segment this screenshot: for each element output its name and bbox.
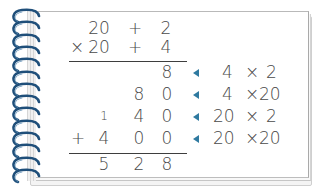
result-digit-tens: 2 bbox=[132, 156, 146, 173]
multiplicand-plus: + bbox=[128, 20, 142, 37]
partial-product-digit: 8 bbox=[160, 64, 174, 81]
label-right-factor: 20 bbox=[259, 130, 281, 147]
spiral-binding bbox=[10, 8, 50, 186]
carry-digit: 1 bbox=[99, 110, 109, 122]
partial-product-digit: 0 bbox=[160, 86, 174, 103]
label-times: × bbox=[245, 108, 259, 125]
label-left-factor: 4 bbox=[222, 86, 233, 103]
plus-sign: + bbox=[71, 130, 85, 147]
pointer-arrow-icon bbox=[193, 69, 199, 77]
partial-product-digit: 0 bbox=[132, 130, 146, 147]
result-digit-ones: 8 bbox=[160, 156, 174, 173]
label-times: × bbox=[245, 130, 259, 147]
multiplicand-tens: 20 bbox=[86, 20, 112, 37]
label-left-factor: 4 bbox=[222, 64, 233, 81]
partial-product-digit: 4 bbox=[132, 108, 146, 125]
label-times: × bbox=[245, 86, 259, 103]
partial-product-digit: 8 bbox=[132, 86, 146, 103]
label-right-factor: 20 bbox=[259, 86, 281, 103]
multiplicand-ones: 2 bbox=[159, 20, 173, 37]
partial-product-digit: 4 bbox=[97, 130, 111, 147]
spiral-ring bbox=[10, 168, 44, 182]
multiplier-tens: 20 bbox=[86, 39, 112, 56]
pointer-arrow-icon bbox=[193, 113, 199, 121]
times-sign: × bbox=[70, 39, 84, 56]
multiplier-plus: + bbox=[128, 39, 142, 56]
notebook-illustration: 20 + 2 × 20 + 4 84×2804×2014020×2+40020×… bbox=[0, 0, 319, 188]
label-right-factor: 2 bbox=[266, 64, 277, 81]
pointer-arrow-icon bbox=[193, 91, 199, 99]
label-times: × bbox=[245, 64, 259, 81]
label-right-factor: 2 bbox=[266, 108, 277, 125]
pointer-arrow-icon bbox=[193, 135, 199, 143]
label-left-factor: 20 bbox=[213, 108, 235, 125]
partial-product-digit: 0 bbox=[160, 108, 174, 125]
result-digit-hundreds: 5 bbox=[97, 156, 111, 173]
label-left-factor: 20 bbox=[213, 130, 235, 147]
multiplier-ones: 4 bbox=[159, 39, 173, 56]
partial-product-digit: 0 bbox=[160, 130, 174, 147]
